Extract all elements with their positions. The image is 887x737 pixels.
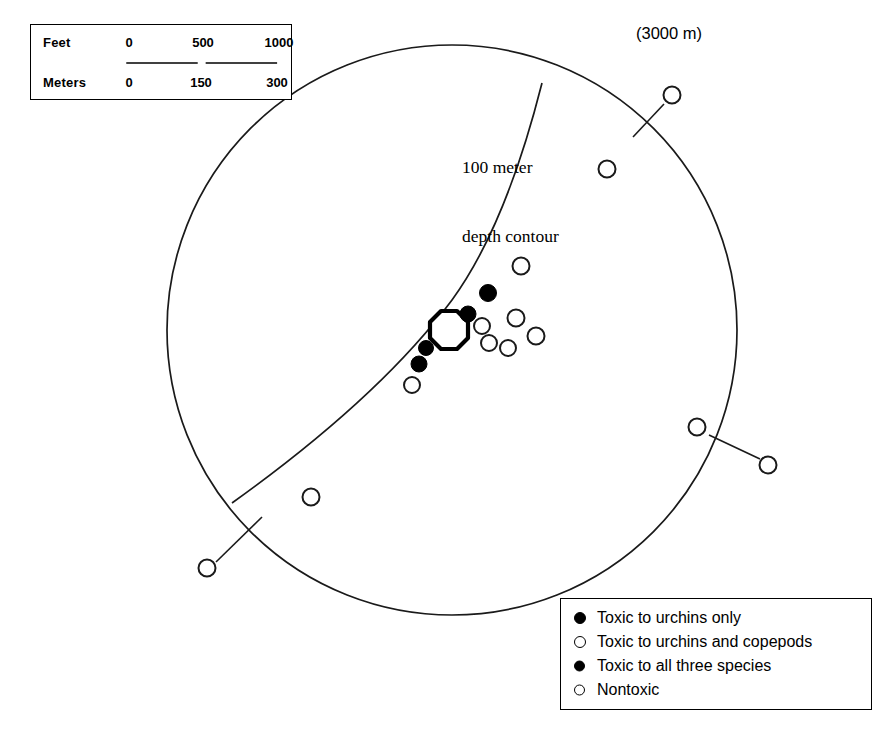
scale-tick-feet-1000: 1000: [265, 34, 294, 52]
station-marker-open[interactable]: [508, 310, 525, 327]
station-marker-open[interactable]: [199, 560, 216, 577]
depth-contour-label: 100 meter depth contour: [462, 110, 559, 294]
scale-tick-meters-0: 0: [125, 74, 132, 92]
legend-item-label: Toxic to all three species: [597, 656, 771, 676]
scale-row-feet: Feet 0 500 1000: [31, 34, 291, 52]
station-marker-filled[interactable]: [411, 356, 427, 372]
scale-ruler-line: [31, 58, 291, 68]
station-marker-open[interactable]: [481, 335, 497, 351]
scale-row-meters: Meters 0 150 300: [31, 74, 291, 92]
legend-marker-filled-circle-icon: [574, 661, 585, 672]
scale-tick-feet-0: 0: [125, 34, 132, 52]
station-marker-open[interactable]: [404, 377, 420, 393]
legend-item-toxic-urchins-only: Toxic to urchins only: [561, 606, 871, 630]
station-marker-filled[interactable]: [460, 306, 476, 322]
station-marker-open[interactable]: [599, 161, 616, 178]
station-marker-open[interactable]: [500, 340, 516, 356]
leader-line: [633, 104, 664, 137]
legend-marker-open-circle-icon: [574, 685, 585, 696]
leader-line: [709, 435, 760, 459]
legend: Toxic to urchins only Toxic to urchins a…: [560, 598, 872, 710]
depth-contour-label-line1: 100 meter: [462, 156, 559, 179]
legend-item-toxic-all-three: Toxic to all three species: [561, 654, 871, 678]
distance-label: (3000 m): [636, 23, 702, 43]
legend-item-label: Toxic to urchins and copepods: [597, 632, 812, 652]
scale-bar: Feet 0 500 1000 Meters 0 150 300: [30, 24, 292, 100]
scale-unit-label-feet: Feet: [43, 34, 71, 52]
legend-item-nontoxic: Nontoxic: [561, 678, 871, 702]
legend-item-label: Toxic to urchins only: [597, 608, 741, 628]
scale-tick-meters-150: 150: [190, 74, 212, 92]
leader-line: [216, 517, 262, 562]
depth-contour-label-line2: depth contour: [462, 225, 559, 248]
legend-item-toxic-urchins-copepods: Toxic to urchins and copepods: [561, 630, 871, 654]
station-marker-open[interactable]: [760, 457, 777, 474]
legend-marker-filled-circle-icon: [574, 612, 586, 624]
legend-item-label: Nontoxic: [597, 680, 659, 700]
station-marker-open[interactable]: [528, 328, 545, 345]
figure-root: Feet 0 500 1000 Meters 0 150 300 100 met…: [0, 0, 887, 737]
station-marker-open[interactable]: [303, 489, 320, 506]
station-marker-open[interactable]: [689, 419, 706, 436]
scale-unit-label-meters: Meters: [43, 74, 86, 92]
station-marker-filled[interactable]: [419, 341, 434, 356]
scale-tick-meters-300: 300: [266, 74, 288, 92]
scale-tick-feet-500: 500: [192, 34, 214, 52]
legend-marker-open-circle-icon: [574, 636, 586, 648]
station-marker-open[interactable]: [664, 87, 681, 104]
station-marker-open[interactable]: [474, 318, 490, 334]
